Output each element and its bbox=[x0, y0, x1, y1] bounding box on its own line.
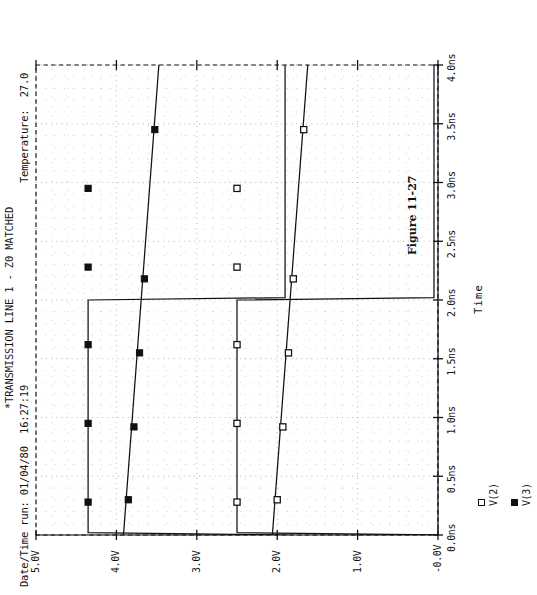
x-tick-label: 2.5ns bbox=[446, 230, 457, 258]
figure-caption: Figure 11-27 bbox=[406, 176, 419, 255]
x-tick-label: 2.0ns bbox=[446, 289, 457, 317]
x-tick-label: 0.0ns bbox=[446, 524, 457, 552]
legend: V(2) V(3) bbox=[466, 483, 537, 529]
x-tick-label: 3.0ns bbox=[446, 171, 457, 199]
x-tick-label: 4.0ns bbox=[446, 54, 457, 82]
x-axis-title: Time bbox=[472, 284, 484, 314]
y-tick-label: 4.0V bbox=[110, 551, 121, 573]
y-tick-label: 5.0V bbox=[30, 551, 41, 573]
y-tick-label: 1.0V bbox=[352, 551, 363, 573]
x-tick-label: 0.5ns bbox=[446, 465, 457, 493]
y-tick-label: 3.0V bbox=[191, 551, 202, 573]
x-tick-label: 3.5ns bbox=[446, 113, 457, 141]
y-tick-label: 2.0V bbox=[271, 551, 282, 573]
x-tick-label: 1.5ns bbox=[446, 348, 457, 376]
legend-marker-filled-square bbox=[511, 499, 518, 506]
legend-marker-open-square bbox=[478, 499, 485, 506]
legend-label-v3: V(3) bbox=[521, 483, 532, 506]
y-tick-label: -0.0V bbox=[432, 545, 443, 573]
legend-label-v2: V(2) bbox=[488, 483, 499, 506]
x-tick-label: 1.0ns bbox=[446, 406, 457, 434]
